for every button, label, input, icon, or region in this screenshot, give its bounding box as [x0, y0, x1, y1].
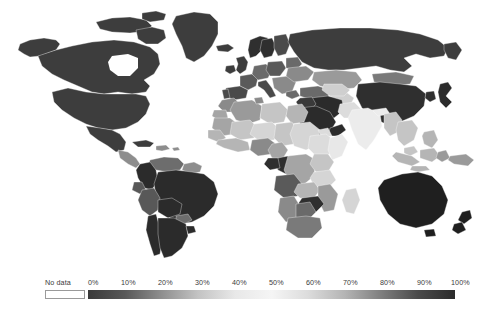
legend-band-40-50: [235, 290, 272, 299]
legend-tick-10: 10%: [121, 278, 136, 288]
legend-gradient-bar: [88, 290, 455, 299]
legend-tick-90: 90%: [417, 278, 432, 288]
world-map-figure: No data 0% 10% 20% 30% 40% 50% 60% 70% 8…: [0, 0, 488, 314]
legend-no-data-swatch: [45, 290, 85, 299]
legend-tick-50: 50%: [269, 278, 284, 288]
legend-band-30-40: [198, 290, 235, 299]
world-map-svg: [0, 0, 488, 268]
legend-band-10-20: [125, 290, 162, 299]
legend-color-bars: [0, 290, 488, 299]
legend-band-90-100: [418, 290, 455, 299]
legend-no-data-label: No data: [45, 278, 71, 288]
country-tunisia: [254, 97, 264, 104]
legend-tick-30: 30%: [195, 278, 210, 288]
legend-band-80-90: [382, 290, 419, 299]
legend-band-20-30: [161, 290, 198, 299]
legend-band-0-10: [88, 290, 125, 299]
legend-tick-70: 70%: [343, 278, 358, 288]
legend-tick-60: 60%: [306, 278, 321, 288]
legend-tick-labels: No data 0% 10% 20% 30% 40% 50% 60% 70% 8…: [0, 278, 488, 290]
legend-tick-0: 0%: [88, 278, 99, 288]
choropleth-map: [0, 0, 488, 268]
legend-band-60-70: [308, 290, 345, 299]
country-tasmania: [424, 229, 436, 237]
legend-tick-40: 40%: [232, 278, 247, 288]
map-legend: No data 0% 10% 20% 30% 40% 50% 60% 70% 8…: [0, 268, 488, 314]
legend-tick-100: 100%: [451, 278, 470, 288]
legend-tick-20: 20%: [158, 278, 173, 288]
legend-tick-80: 80%: [380, 278, 395, 288]
legend-band-50-60: [272, 290, 309, 299]
legend-band-70-80: [345, 290, 382, 299]
